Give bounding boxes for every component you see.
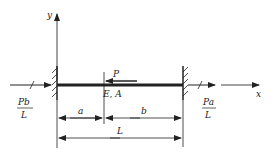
right-reaction-numerator: Pa xyxy=(202,97,214,107)
left-reaction-denominator: L xyxy=(20,110,27,120)
x-axis: x xyxy=(221,85,261,99)
bar: E, A xyxy=(57,85,183,99)
x-axis-label: x xyxy=(256,89,261,99)
dimension-a-label: a xyxy=(78,106,83,116)
y-axis-label: y xyxy=(46,10,53,20)
dimension-b: b xyxy=(106,106,181,118)
dimension-b-label: b xyxy=(141,106,147,116)
left-reaction-numerator: Pb xyxy=(17,97,30,107)
right-reaction-denominator: L xyxy=(204,110,211,120)
right-fixed-support xyxy=(183,66,188,100)
left-reaction: Pb L xyxy=(10,81,51,120)
right-reaction: Pa L xyxy=(188,81,216,120)
dimension-a: a xyxy=(59,106,102,118)
dimension-l: L xyxy=(59,126,181,138)
bar-properties-label: E, A xyxy=(102,89,122,99)
dimension-l-label: L xyxy=(116,126,123,136)
left-fixed-support xyxy=(52,66,57,100)
load-label: P xyxy=(112,69,120,79)
bar-diagram: y E, A P Pb L Pa xyxy=(0,0,276,159)
